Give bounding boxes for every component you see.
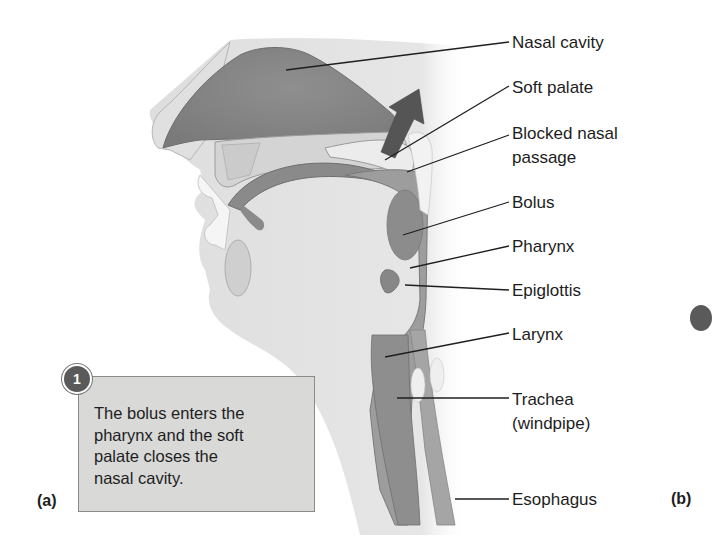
label-trachea-line2: (windpipe) [512,414,590,434]
label-blocked-nasal-passage-line1: Blocked nasal [512,124,618,144]
label-blocked-nasal-passage-line2: passage [512,148,576,168]
step-description: The bolus enters the pharynx and the sof… [94,403,309,489]
label-bolus: Bolus [512,193,555,213]
next-step-badge-partial [690,305,712,331]
label-soft-palate: Soft palate [512,78,593,98]
label-esophagus: Esophagus [512,490,597,510]
label-trachea-line1: Trachea [512,390,574,410]
panel-label-a: (a) [37,492,57,510]
label-larynx: Larynx [512,325,563,345]
step-number-badge: 1 [62,364,92,394]
bolus-shape [387,190,423,260]
step-callout-box: The bolus enters the pharynx and the sof… [78,376,315,512]
label-epiglottis: Epiglottis [512,281,581,301]
panel-label-b: (b) [671,490,691,508]
label-nasal-cavity: Nasal cavity [512,33,604,53]
label-pharynx: Pharynx [512,237,574,257]
